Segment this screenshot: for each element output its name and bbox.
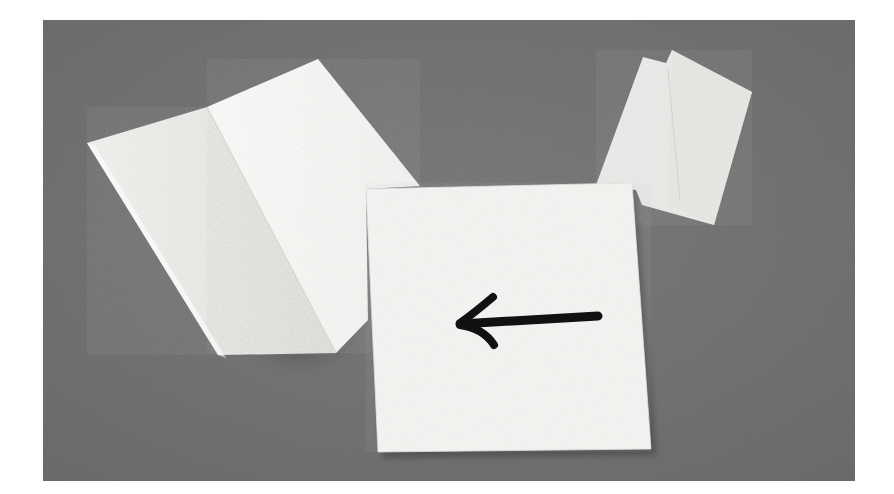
photo bbox=[43, 20, 855, 481]
scene bbox=[43, 20, 855, 481]
